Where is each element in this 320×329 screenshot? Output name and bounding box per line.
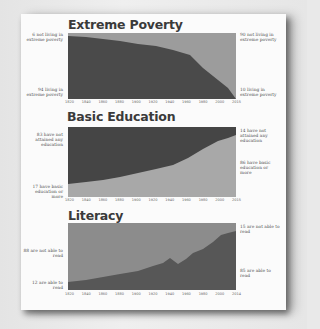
x-tick: 1860 [98, 292, 107, 298]
x-tick: 1840 [82, 292, 91, 298]
x-tick: 1900 [132, 198, 141, 204]
chart-title-literacy: Literacy [68, 209, 123, 223]
x-tick: 1860 [98, 100, 107, 106]
x-axis-ticks-literacy: 1820 1840 1860 1880 1900 1920 1940 1960 … [65, 292, 241, 298]
plot-literacy [68, 223, 236, 290]
chart-title-extreme-poverty: Extreme Poverty [68, 18, 183, 32]
x-tick: 1900 [132, 100, 141, 106]
x-tick: 1860 [98, 198, 107, 204]
x-tick: 1920 [149, 292, 158, 298]
annotation-right-top: 14 have not attained any education [240, 128, 280, 144]
area-chart-literacy [68, 223, 236, 290]
x-tick: 1880 [115, 198, 124, 204]
x-tick: 1840 [82, 198, 91, 204]
x-tick: 1940 [165, 100, 174, 106]
x-tick: 2000 [215, 292, 224, 298]
x-tick: 1960 [182, 292, 191, 298]
x-tick: 1960 [182, 198, 191, 204]
x-tick: 2000 [215, 198, 224, 204]
plot-basic-education [68, 127, 236, 197]
annotation-right-bottom: 10 living in extreme poverty [240, 87, 280, 97]
annotation-left-bottom: 17 have basic education or more [23, 184, 63, 200]
annotation-left-top: 88 are not able to read [23, 248, 63, 258]
annotation-left-bottom: 12 are able to read [23, 280, 63, 290]
x-tick: 1820 [65, 292, 74, 298]
x-tick: 1920 [149, 198, 158, 204]
infographic-card: Extreme Poverty 6 not living in extreme … [21, 14, 286, 310]
area-chart-basic-education [68, 127, 236, 197]
chart-title-basic-education: Basic Education [67, 110, 175, 124]
x-axis-ticks-basic-education: 1820 1840 1860 1880 1900 1920 1940 1960 … [65, 198, 241, 204]
x-tick: 1980 [199, 100, 208, 106]
annotation-right-bottom: 85 are able to read [240, 268, 280, 278]
area-chart-extreme-poverty [68, 33, 236, 99]
annotation-right-bottom: 86 have basic education or more [240, 160, 280, 176]
x-tick: 1900 [132, 292, 141, 298]
plot-extreme-poverty [68, 33, 236, 99]
x-tick: 1820 [65, 100, 74, 106]
x-tick: 1820 [65, 198, 74, 204]
x-tick: 1880 [115, 292, 124, 298]
x-tick: 1920 [149, 100, 158, 106]
x-tick: 1840 [82, 100, 91, 106]
x-tick: 2015 [232, 100, 241, 106]
x-tick: 1980 [199, 292, 208, 298]
x-tick: 2015 [232, 198, 241, 204]
annotation-right-top: 15 are not able to read [240, 224, 280, 234]
x-tick: 1940 [165, 198, 174, 204]
x-tick: 1880 [115, 100, 124, 106]
x-tick: 1940 [165, 292, 174, 298]
annotation-left-top: 83 have not attained any education [23, 132, 63, 148]
annotation-left-bottom: 94 living in extreme poverty [23, 87, 63, 97]
x-tick: 2000 [215, 100, 224, 106]
annotation-left-top: 6 not living in extreme poverty [23, 32, 63, 42]
x-tick: 1960 [182, 100, 191, 106]
annotation-right-top: 90 not living in extreme poverty [240, 32, 280, 42]
x-tick: 2014 [232, 292, 241, 298]
x-axis-ticks-extreme-poverty: 1820 1840 1860 1880 1900 1920 1940 1960 … [65, 100, 241, 106]
x-tick: 1980 [199, 198, 208, 204]
